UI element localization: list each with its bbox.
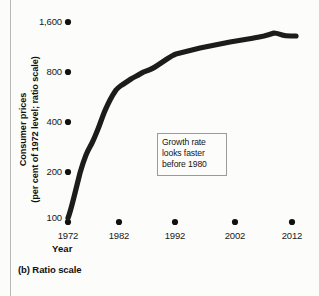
x-axis-title: Year xyxy=(52,243,72,254)
x-tick-dot-2002 xyxy=(232,219,238,225)
x-tick-label-1992: 1992 xyxy=(152,230,198,241)
x-tick-dot-1992 xyxy=(172,219,178,225)
y-tick-dot-1600 xyxy=(65,19,71,25)
x-tick-label-2012: 2012 xyxy=(269,230,315,241)
y-tick-dot-400 xyxy=(65,119,71,125)
annotation-line-2: looks faster xyxy=(162,148,222,159)
x-tick-label-2002: 2002 xyxy=(212,230,258,241)
x-tick-dot-2012 xyxy=(289,219,295,225)
x-tick-label-1982: 1982 xyxy=(96,230,142,241)
annotation-line-3: before 1980 xyxy=(162,159,222,170)
y-tick-dot-200 xyxy=(65,169,71,175)
consumer-price-line xyxy=(68,33,296,218)
panel-caption: (b) Ratio scale xyxy=(18,264,81,275)
chart-figure: Consumer prices (per cent of 1972 level;… xyxy=(0,0,319,296)
annotation-line-1: Growth rate xyxy=(162,137,222,148)
x-tick-dot-1982 xyxy=(116,219,122,225)
x-tick-label-1972: 1972 xyxy=(45,230,91,241)
y-tick-dot-800 xyxy=(65,69,71,75)
annotation-callout: Growth rate looks faster before 1980 xyxy=(157,133,227,176)
